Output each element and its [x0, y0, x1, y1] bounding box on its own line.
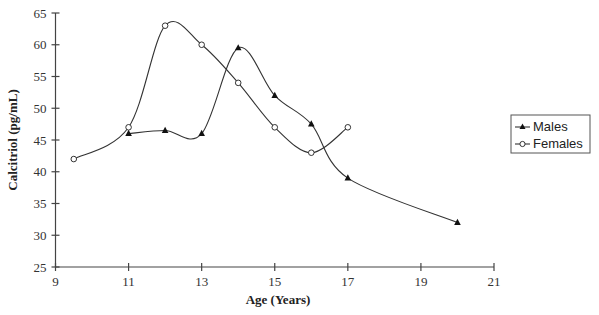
series-line [74, 21, 348, 159]
y-tick-label: 45 [34, 133, 47, 148]
y-tick-label: 25 [34, 260, 47, 275]
circle-marker-icon [126, 125, 132, 131]
circle-marker-icon [308, 150, 314, 156]
y-tick-label: 50 [34, 101, 47, 116]
y-axis-title: Calcitriol (pg/mL) [5, 89, 20, 190]
x-axis: 9111315171921 [52, 263, 500, 289]
series-males [125, 44, 460, 225]
y-axis: 253035404550556065 [34, 6, 60, 275]
y-tick-label: 65 [34, 6, 47, 21]
x-tick-label: 13 [195, 274, 208, 289]
x-tick-label: 11 [122, 274, 135, 289]
triangle-marker-icon [345, 174, 352, 180]
circle-marker-icon [199, 42, 205, 48]
circle-marker-icon [71, 156, 77, 162]
legend: Males Females [511, 115, 590, 153]
x-tick-label: 19 [414, 274, 427, 289]
y-tick-label: 55 [34, 69, 47, 84]
series-line [129, 47, 458, 222]
circle-marker-icon [345, 125, 351, 131]
legend-label-males: Males [533, 119, 568, 134]
y-tick-label: 40 [34, 164, 47, 179]
x-tick-label: 21 [488, 274, 501, 289]
y-tick-label: 30 [34, 228, 47, 243]
series-layer [71, 21, 461, 224]
circle-marker-icon [520, 141, 525, 146]
legend-label-females: Females [533, 136, 583, 151]
triangle-marker-icon [162, 127, 169, 133]
x-tick-label: 17 [341, 274, 355, 289]
line-chart: 253035404550556065 9111315171921 Calcitr… [0, 0, 599, 315]
y-tick-label: 35 [34, 196, 47, 211]
x-axis-title: Age (Years) [246, 292, 311, 307]
circle-marker-icon [235, 80, 241, 86]
circle-marker-icon [272, 125, 278, 131]
x-tick-label: 9 [52, 274, 59, 289]
x-tick-label: 15 [268, 274, 281, 289]
y-tick-label: 60 [34, 37, 47, 52]
circle-marker-icon [162, 23, 168, 29]
series-females [71, 21, 351, 161]
